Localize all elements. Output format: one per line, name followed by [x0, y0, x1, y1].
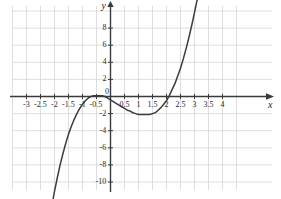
x-tick-label: -1 — [79, 101, 86, 109]
x-tick-label: 1 — [137, 101, 141, 109]
axis-lines — [10, 1, 274, 192]
x-tick-label: 4 — [221, 101, 225, 109]
y-tick-label: -6 — [100, 144, 107, 152]
y-axis-label: y — [102, 1, 106, 11]
y-tick-label: 6 — [103, 41, 107, 49]
y-tick-label: -2 — [100, 110, 107, 118]
y-tick-label: -4 — [100, 127, 107, 135]
x-axis-label: x — [268, 100, 272, 110]
x-tick-label: 3 — [193, 101, 197, 109]
y-tick-label: 8 — [103, 24, 107, 32]
x-tick-label: -2.5 — [34, 101, 47, 109]
x-tick-label: 0 — [105, 88, 109, 96]
chart-figure: -3-2.5-2-1.5-1-0.500.511.522.533.54 8642… — [0, 0, 281, 199]
y-tick-label: 4 — [103, 58, 107, 66]
x-tick-label: 3.5 — [204, 101, 214, 109]
x-tick-label: 0.5 — [120, 101, 130, 109]
x-tick-label: 2 — [165, 101, 169, 109]
x-tick-label: 1.5 — [148, 101, 158, 109]
x-tick-label: -1.5 — [62, 101, 75, 109]
x-tick-label: -0.5 — [90, 101, 103, 109]
x-tick-label: 2.5 — [176, 101, 186, 109]
x-tick-label: -2 — [51, 101, 58, 109]
x-tick-label: -3 — [23, 101, 30, 109]
y-tick-label: -8 — [100, 161, 107, 169]
y-axis-arrowhead — [107, 1, 113, 7]
y-tick-label: -10 — [96, 178, 107, 186]
y-tick-label: 2 — [103, 75, 107, 83]
